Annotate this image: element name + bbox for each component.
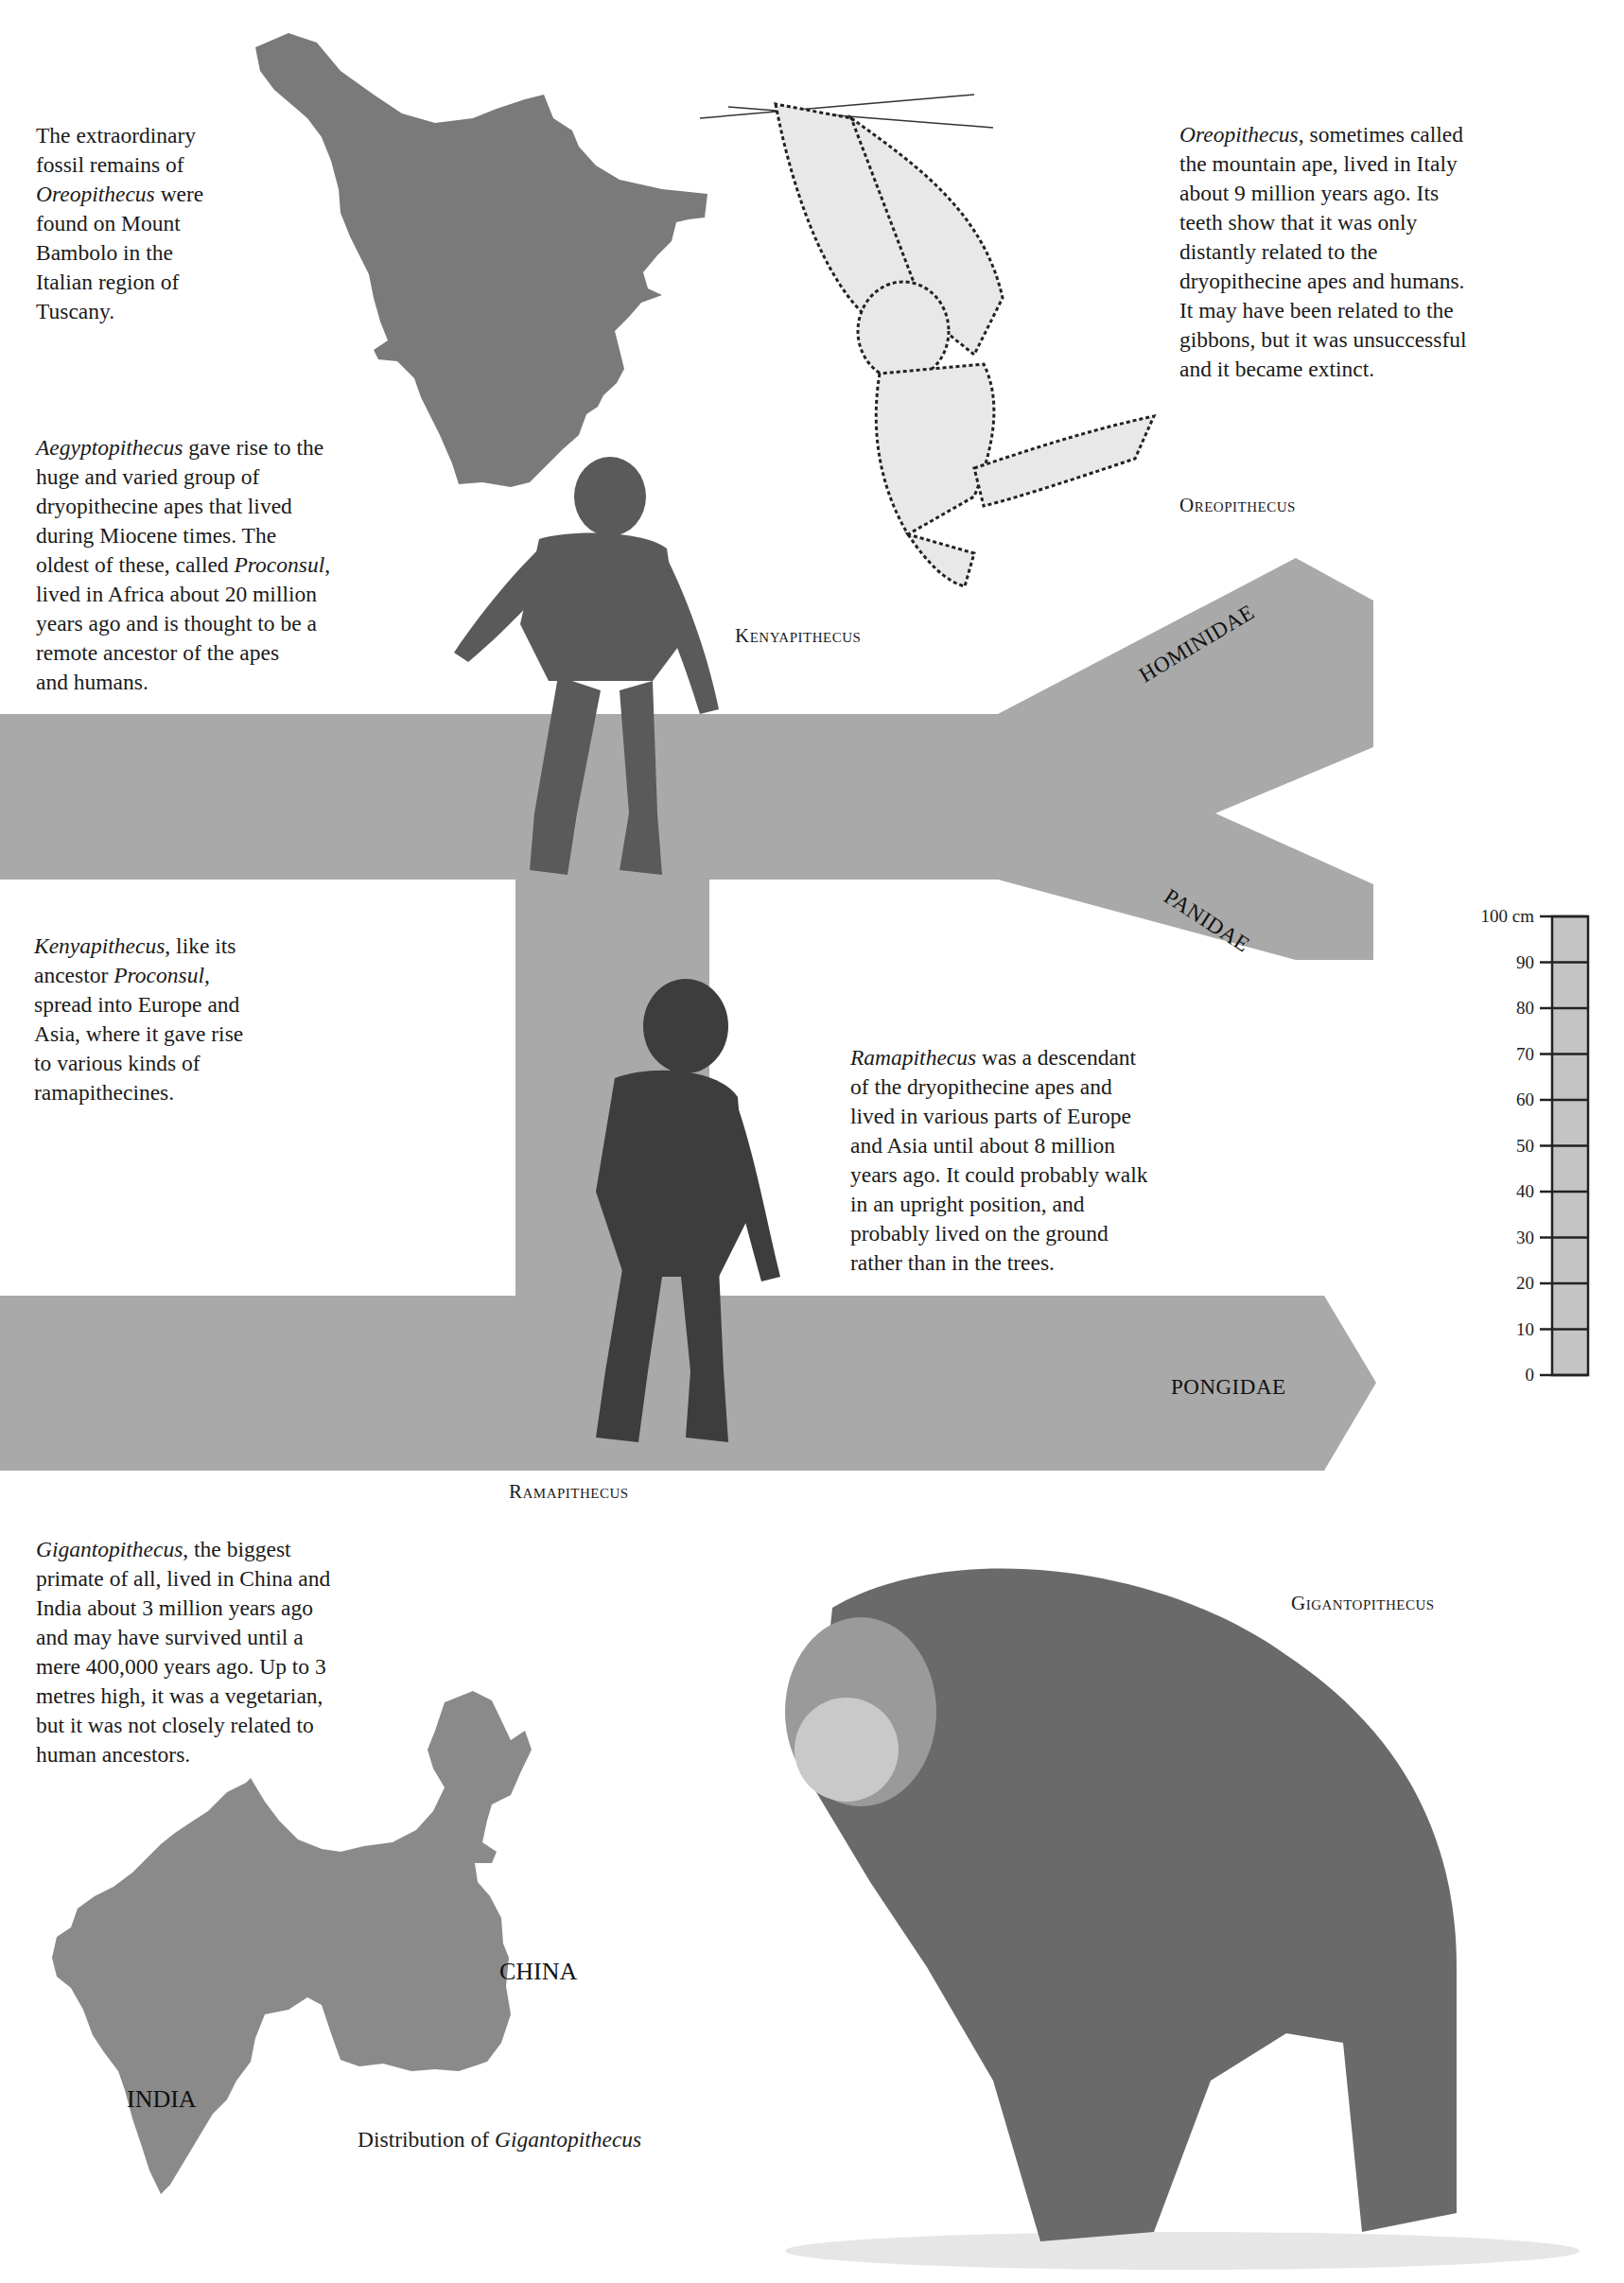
scale-tick-label: 60: [1516, 1089, 1534, 1109]
text-line: and may have survived until a: [36, 1623, 424, 1652]
text-line: probably lived on the ground: [850, 1219, 1248, 1248]
text-line: metres high, it was a vegetarian,: [36, 1682, 424, 1711]
text-line: Asia, where it gave rise: [34, 1020, 318, 1049]
text-line: ramapithecines.: [34, 1078, 318, 1107]
ramapithecus-illustration: [530, 974, 832, 1466]
text-line: Oreopithecus were: [36, 180, 263, 209]
text-line: Ramapithecus was a descendant: [850, 1043, 1248, 1072]
text-line: Bambolo in the: [36, 238, 263, 268]
text-line: the mountain ape, lived in Italy: [1179, 149, 1577, 179]
text-line: in an upright position, and: [850, 1190, 1248, 1219]
ramapithecus-caption: Ramapithecus: [509, 1480, 629, 1504]
text-line: and humans.: [36, 668, 405, 697]
text-line: about 9 million years ago. Its: [1179, 179, 1577, 208]
scale-tick-label: 20: [1516, 1273, 1534, 1293]
text-line: to various kinds of: [34, 1049, 318, 1078]
scale-tick-label: 0: [1526, 1365, 1535, 1385]
text-line: of the dryopithecine apes and: [850, 1072, 1248, 1102]
text-line: distantly related to the: [1179, 237, 1577, 267]
text-line: remote ancestor of the apes: [36, 638, 405, 668]
text-line: It may have been related to the: [1179, 296, 1577, 325]
text-line: India about 3 million years ago: [36, 1594, 424, 1623]
india-label: INDIA: [127, 2085, 197, 2114]
text-line: found on Mount: [36, 209, 263, 238]
text-line: dryopithecine apes and humans.: [1179, 267, 1577, 296]
scale-tick-label: 100 cm: [1481, 906, 1535, 926]
text-line: Aegyptopithecus gave rise to the: [36, 433, 405, 462]
text-line: human ancestors.: [36, 1740, 424, 1769]
text-line: during Miocene times. The: [36, 521, 405, 550]
text-line: Oreopithecus, sometimes called: [1179, 120, 1577, 149]
text-line: mere 400,000 years ago. Up to 3: [36, 1652, 424, 1682]
gigantopithecus-illustration: [757, 1551, 1624, 2283]
text-line: fossil remains of: [36, 150, 263, 180]
scale-tick-label: 70: [1516, 1044, 1534, 1064]
text-line: lived in Africa about 20 million: [36, 580, 405, 609]
text-line: Italian region of: [36, 268, 263, 297]
scale-tick-label: 10: [1516, 1319, 1534, 1339]
text-line: years ago. It could probably walk: [850, 1160, 1248, 1190]
text-line: Gigantopithecus, the biggest: [36, 1535, 424, 1564]
text-line: years ago and is thought to be a: [36, 609, 405, 638]
distribution-caption-species: Gigantopithecus: [495, 2127, 641, 2152]
gigantopithecus-caption: Gigantopithecus: [1291, 1592, 1435, 1615]
height-scale-bar: 100 cm9080706050403020100: [1438, 898, 1624, 1485]
distribution-caption: Distribution of Gigantopithecus: [358, 2125, 641, 2154]
scale-tick-label: 30: [1516, 1228, 1534, 1247]
scale-tick-label: 80: [1516, 998, 1534, 1018]
text-line: teeth show that it was only: [1179, 208, 1577, 237]
text-line: dryopithecine apes that lived: [36, 492, 405, 521]
scale-tick-label: 90: [1516, 952, 1534, 972]
text-line: but it was not closely related to: [36, 1711, 424, 1740]
text-line: primate of all, lived in China and: [36, 1564, 424, 1594]
kenyapithecus-illustration: [426, 454, 738, 889]
text-line: oldest of these, called Proconsul,: [36, 550, 405, 580]
oreopithecus-caption: Oreopithecus: [1179, 494, 1296, 517]
distribution-caption-prefix: Distribution of: [358, 2127, 495, 2152]
text-line: gibbons, but it was unsuccessful: [1179, 325, 1577, 355]
kenyapithecus-caption: Kenyapithecus: [735, 624, 861, 648]
text-line: Kenyapithecus, like its: [34, 932, 318, 961]
text-line: Tuscany.: [36, 297, 263, 326]
text-line: ancestor Proconsul,: [34, 961, 318, 990]
kenyapithecus-note: Kenyapithecus, like itsancestor Proconsu…: [34, 932, 318, 1107]
text-line: and it became extinct.: [1179, 355, 1577, 384]
text-line: The extraordinary: [36, 121, 263, 150]
tuscany-note: The extraordinaryfossil remains ofOreopi…: [36, 121, 263, 326]
scale-tick-label: 40: [1516, 1181, 1534, 1201]
text-line: and Asia until about 8 million: [850, 1131, 1248, 1160]
text-line: lived in various parts of Europe: [850, 1102, 1248, 1131]
text-line: spread into Europe and: [34, 990, 318, 1020]
china-label: CHINA: [499, 1958, 577, 1986]
oreopithecus-note: Oreopithecus, sometimes calledthe mounta…: [1179, 120, 1577, 384]
ramapithecus-note: Ramapithecus was a descendantof the dryo…: [850, 1043, 1248, 1278]
pongidae-label: PONGIDAE: [1171, 1375, 1286, 1400]
text-line: rather than in the trees.: [850, 1248, 1248, 1278]
oreopithecus-illustration: [690, 90, 1163, 601]
scale-tick-label: 50: [1516, 1136, 1534, 1156]
text-line: huge and varied group of: [36, 462, 405, 492]
aegyptopithecus-note: Aegyptopithecus gave rise to thehuge and…: [36, 433, 405, 697]
gigantopithecus-note: Gigantopithecus, the biggestprimate of a…: [36, 1535, 424, 1769]
